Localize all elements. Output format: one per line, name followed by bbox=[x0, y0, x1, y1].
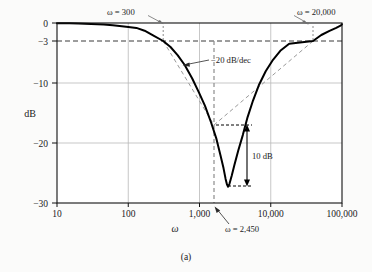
ytick-label-minus-30: −30 bbox=[33, 199, 48, 209]
xtick-label-1000: 1,000 bbox=[189, 209, 211, 219]
x-axis-ticks bbox=[57, 203, 342, 207]
ytick-label-minus-3: −3 bbox=[38, 37, 48, 47]
ytick-label-0: 0 bbox=[43, 19, 48, 29]
ytick-label-minus-20: −20 bbox=[33, 139, 48, 149]
xtick-label-10: 10 bbox=[52, 209, 62, 219]
xtick-label-10000: 10,000 bbox=[258, 209, 284, 219]
xtick-label-100000: 100,000 bbox=[327, 209, 358, 219]
bode-plot-svg: 0 −3 −10 −20 −30 10 100 1,000 10,000 100… bbox=[0, 0, 372, 272]
figure-caption: (a) bbox=[181, 252, 192, 263]
x-axis-title: ω bbox=[171, 223, 178, 234]
annotation-slope-label: −20 dB/dec bbox=[211, 55, 251, 65]
annotation-omega-2450-label: ω = 2,450 bbox=[225, 224, 259, 234]
xtick-label-100: 100 bbox=[121, 209, 136, 219]
ytick-label-minus-10: −10 bbox=[33, 79, 48, 89]
annotation-omega-20000-label: ω = 20,000 bbox=[297, 7, 335, 17]
bode-plot-figure: 0 −3 −10 −20 −30 10 100 1,000 10,000 100… bbox=[0, 0, 372, 272]
y-axis-ticks bbox=[52, 23, 57, 203]
y-axis-title: dB bbox=[24, 108, 36, 119]
annotation-omega-300-label: ω = 300 bbox=[107, 7, 135, 17]
annotation-depth-label: 10 dB bbox=[252, 151, 273, 161]
